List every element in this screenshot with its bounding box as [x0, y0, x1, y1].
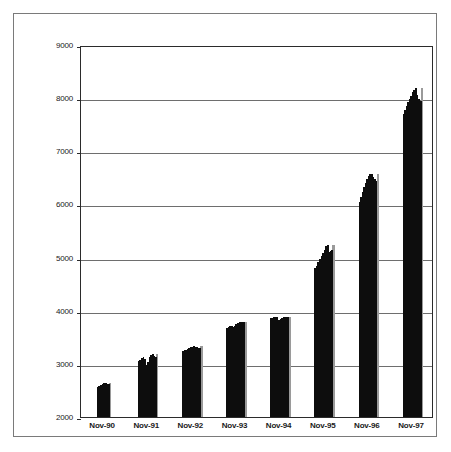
y-tick-label-3000: 3000: [39, 361, 73, 369]
y-tick-label-5000: 5000: [39, 255, 73, 263]
chart-outer-frame: 20003000400050006000700080009000 Nov-90N…: [13, 13, 437, 437]
y-tick-label-2000: 2000: [39, 414, 73, 422]
x-axis: Nov-90Nov-91Nov-92Nov-93Nov-94Nov-95Nov-…: [80, 421, 433, 437]
bar: [108, 384, 110, 417]
bar: [420, 101, 422, 417]
bar: [243, 322, 245, 417]
bar: [199, 348, 201, 417]
y-tick-label-4000: 4000: [39, 308, 73, 316]
y-tick-label-8000: 8000: [39, 95, 73, 103]
bar: [287, 317, 289, 417]
x-tick-label-nov-97: Nov-97: [381, 421, 441, 431]
y-tickmark-2000: [77, 419, 81, 420]
bar-series: [81, 47, 432, 417]
y-tick-label-6000: 6000: [39, 201, 73, 209]
y-tick-label-7000: 7000: [39, 148, 73, 156]
plot-area: [80, 46, 433, 418]
bar: [376, 181, 378, 417]
bar: [331, 250, 333, 417]
y-tick-label-9000: 9000: [39, 42, 73, 50]
bar: [155, 357, 157, 417]
